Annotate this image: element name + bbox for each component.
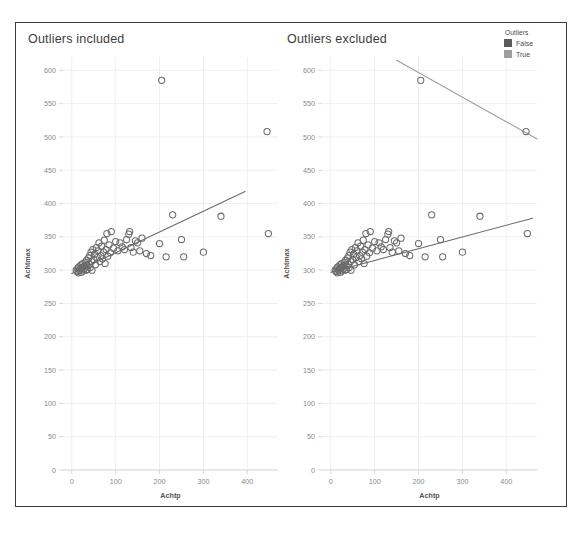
svg-text:500: 500 (303, 133, 315, 142)
svg-text:600: 600 (303, 66, 315, 75)
svg-text:Achtmax: Achtmax (282, 248, 291, 278)
legend-label-false: False (516, 40, 533, 47)
svg-text:Achtp: Achtp (160, 491, 181, 500)
chart-page: Outliers included 0501001502002503003504… (0, 0, 584, 535)
svg-text:400: 400 (241, 477, 253, 486)
svg-text:150: 150 (303, 366, 315, 375)
legend-label-true: True (516, 51, 530, 58)
svg-text:300: 300 (303, 266, 315, 275)
svg-text:50: 50 (307, 432, 315, 441)
svg-text:600: 600 (44, 66, 56, 75)
svg-text:Achtmax: Achtmax (23, 248, 32, 278)
svg-text:0: 0 (311, 466, 315, 475)
svg-text:500: 500 (44, 133, 56, 142)
svg-text:100: 100 (44, 399, 56, 408)
svg-text:250: 250 (303, 299, 315, 308)
svg-text:0: 0 (329, 477, 333, 486)
svg-text:200: 200 (413, 477, 425, 486)
left-scatter-plot: 0501001502002503003504004505005506000100… (16, 23, 286, 507)
svg-text:150: 150 (44, 366, 56, 375)
svg-text:450: 450 (303, 166, 315, 175)
svg-text:100: 100 (110, 477, 122, 486)
svg-text:200: 200 (154, 477, 166, 486)
svg-text:0: 0 (52, 466, 56, 475)
svg-text:550: 550 (303, 99, 315, 108)
chart-panel: Outliers included 0501001502002503003504… (15, 22, 567, 507)
svg-text:100: 100 (303, 399, 315, 408)
svg-text:350: 350 (44, 232, 56, 241)
svg-text:300: 300 (197, 477, 209, 486)
right-scatter-plot: 0501001502002503003504004505005506000100… (275, 23, 545, 507)
legend-item-false[interactable]: False (504, 39, 560, 47)
legend-title: Outliers (505, 29, 560, 36)
svg-text:300: 300 (456, 477, 468, 486)
svg-text:100: 100 (369, 477, 381, 486)
svg-text:200: 200 (44, 332, 56, 341)
svg-text:50: 50 (48, 432, 56, 441)
svg-text:400: 400 (303, 199, 315, 208)
svg-text:Achtp: Achtp (419, 491, 440, 500)
legend-swatch-true (504, 50, 512, 58)
svg-text:400: 400 (44, 199, 56, 208)
legend: Outliers False True (504, 29, 560, 61)
svg-text:350: 350 (303, 232, 315, 241)
svg-text:400: 400 (500, 477, 512, 486)
legend-swatch-false (504, 39, 512, 47)
svg-text:200: 200 (303, 332, 315, 341)
legend-item-true[interactable]: True (504, 50, 560, 58)
svg-text:550: 550 (44, 99, 56, 108)
svg-text:300: 300 (44, 266, 56, 275)
svg-text:250: 250 (44, 299, 56, 308)
svg-text:450: 450 (44, 166, 56, 175)
svg-text:0: 0 (70, 477, 74, 486)
